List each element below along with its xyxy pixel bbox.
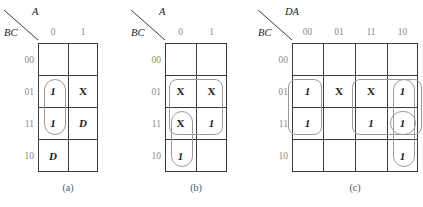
kmap-b-cell-r3-c1[interactable]: [196, 139, 227, 172]
kmap-c-cell-r1-c1[interactable]: X: [323, 75, 355, 107]
kmap-c-row-header-00: 00: [260, 55, 288, 65]
kmap-a-cell-r1-c0[interactable]: 1: [38, 75, 68, 107]
kmap-c-cell-r2-c3[interactable]: 1: [387, 107, 418, 139]
kmap-b-row-header-01: 01: [133, 87, 161, 97]
kmap-b-caption: (b): [165, 182, 227, 193]
kmap-c-cell-r1-c0[interactable]: 1: [292, 75, 323, 107]
kmap-a-col-header-0: 0: [38, 27, 68, 37]
kmap-c-cell-r3-c1[interactable]: [323, 139, 355, 172]
kmap-c-cell-r0-c0[interactable]: [292, 43, 323, 75]
kmap-c-cell-r1-c3[interactable]: 1: [387, 75, 418, 107]
kmap-b-cell-r0-c1[interactable]: [196, 43, 227, 75]
kmap-c-col-header-00: 00: [292, 27, 323, 37]
kmap-c-row-variable: BC: [258, 27, 271, 38]
kmap-c-cell-r2-c1[interactable]: [323, 107, 355, 139]
kmap-b-row-variable: BC: [131, 27, 144, 38]
kmap-a-row-header-11: 11: [6, 119, 34, 129]
kmap-c-col-header-11: 11: [355, 27, 387, 37]
kmap-a-col-variable: A: [32, 6, 38, 17]
kmap-a-cell-r0-c0[interactable]: [38, 43, 68, 75]
kmap-b-col-header-1: 1: [196, 27, 227, 37]
kmap-a-cell-r2-c0[interactable]: 1: [38, 107, 68, 139]
kmap-a-cell-r3-c1[interactable]: [68, 139, 98, 172]
kmap-b-row-header-10: 10: [133, 151, 161, 161]
kmap-a-col-header-1: 1: [68, 27, 98, 37]
kmap-b-cell-r2-c1[interactable]: 1: [196, 107, 227, 139]
kmap-c-cell-r3-c2[interactable]: [355, 139, 387, 172]
kmap-c-row-header-01: 01: [260, 87, 288, 97]
kmap-a-row-header-01: 01: [6, 87, 34, 97]
kmap-c-col-header-10: 10: [387, 27, 418, 37]
kmap-c-cell-r3-c3[interactable]: 1: [387, 139, 418, 172]
kmap-a-caption: (a): [38, 182, 98, 193]
kmap-b-cell-r1-c1[interactable]: X: [196, 75, 227, 107]
kmap-c-row-header-10: 10: [260, 151, 288, 161]
kmap-b-cell-r2-c0[interactable]: X: [165, 107, 196, 139]
kmap-c-col-header-01: 01: [323, 27, 355, 37]
kmap-a-row-header-00: 00: [6, 55, 34, 65]
kmap-b-cell-r3-c0[interactable]: 1: [165, 139, 196, 172]
kmap-c-caption: (c): [292, 182, 418, 193]
kmap-b-col-variable: A: [159, 6, 165, 17]
kmap-a-row-header-10: 10: [6, 151, 34, 161]
kmap-b-row-header-11: 11: [133, 119, 161, 129]
kmap-a-row-variable: BC: [4, 27, 17, 38]
kmap-b-row-header-00: 00: [133, 55, 161, 65]
kmap-b-col-header-0: 0: [165, 27, 196, 37]
kmap-c-cell-r1-c2[interactable]: X: [355, 75, 387, 107]
kmap-c-cell-r0-c1[interactable]: [323, 43, 355, 75]
kmap-a-cell-r3-c0[interactable]: D: [38, 139, 68, 172]
kmap-c-cell-r0-c2[interactable]: [355, 43, 387, 75]
kmap-c-cell-r2-c0[interactable]: 1: [292, 107, 323, 139]
kmap-b-cell-r0-c0[interactable]: [165, 43, 196, 75]
kmap-c-col-variable: DA: [285, 6, 299, 17]
kmap-a-cell-r1-c1[interactable]: X: [68, 75, 98, 107]
kmap-c-cell-r2-c2[interactable]: 1: [355, 107, 387, 139]
kmap-a-cell-r0-c1[interactable]: [68, 43, 98, 75]
kmap-c-cell-r0-c3[interactable]: [387, 43, 418, 75]
kmap-a-cell-r2-c1[interactable]: D: [68, 107, 98, 139]
kmap-c-row-header-11: 11: [260, 119, 288, 129]
kmap-c-cell-r3-c0[interactable]: [292, 139, 323, 172]
kmap-b-cell-r1-c0[interactable]: X: [165, 75, 196, 107]
